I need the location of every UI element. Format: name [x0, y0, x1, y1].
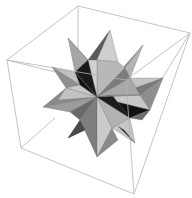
figure-canvas: Great stellated dodecahedron in bounding…: [0, 0, 192, 198]
stellated-polyhedron: [43, 30, 163, 157]
polyhedron-figure: [0, 0, 192, 198]
